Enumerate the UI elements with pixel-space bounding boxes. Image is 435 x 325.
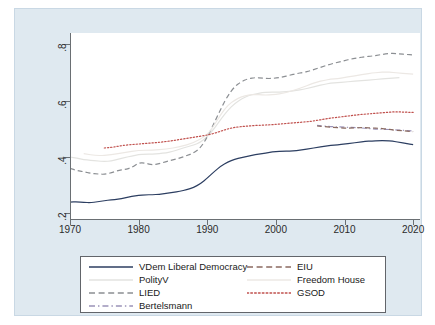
legend-key-line-solid-offwhite (247, 275, 291, 285)
legend-entry[interactable]: PolityV (89, 273, 169, 286)
series-line (104, 112, 413, 148)
graph-region: .2.4.6.8 197019801990200020102020 VDem L… (14, 8, 422, 316)
legend-inner: VDem Liberal DemocracyPolityVLIEDBertels… (81, 257, 385, 312)
x-tick-label: 1970 (50, 224, 90, 235)
series-canvas (70, 33, 420, 219)
legend-entry[interactable]: Bertelsmann (89, 299, 192, 312)
legend-key-line-solid-lightgrey (89, 275, 133, 285)
series-line (70, 78, 399, 162)
y-tick-label: .4 (57, 157, 68, 187)
chart-figure: .2.4.6.8 197019801990200020102020 VDem L… (0, 0, 435, 325)
legend: VDem Liberal DemocracyPolityVLIEDBertels… (80, 256, 386, 313)
legend-label: VDem Liberal Democracy (139, 262, 247, 272)
legend-entry[interactable]: GSOD (247, 286, 325, 299)
x-tick-label: 1990 (187, 224, 227, 235)
legend-key-line-dashed-brown (247, 262, 291, 272)
x-tick-label: 1980 (119, 224, 159, 235)
legend-entry[interactable]: EIU (247, 260, 313, 273)
y-tick-label: .8 (57, 44, 68, 74)
legend-label: EIU (297, 262, 313, 272)
plot-area (70, 33, 420, 219)
x-tick-label: 2020 (393, 224, 433, 235)
y-axis-line (70, 33, 71, 220)
legend-entry[interactable]: LIED (89, 286, 160, 299)
series-line (70, 141, 413, 203)
legend-key-line-dashed-grey (89, 288, 133, 298)
x-tick-label: 2010 (325, 224, 365, 235)
legend-label: LIED (139, 288, 160, 298)
legend-label: PolityV (139, 275, 169, 285)
legend-label: Bertelsmann (139, 301, 192, 311)
legend-entry[interactable]: Freedom House (247, 273, 365, 286)
y-tick-label: .6 (57, 100, 68, 130)
legend-label: Freedom House (297, 275, 365, 285)
legend-key-line-dotted-red (247, 288, 291, 298)
x-tick-label: 2000 (256, 224, 296, 235)
legend-label: GSOD (297, 288, 325, 298)
legend-key-line-solid-navy (89, 262, 133, 272)
series-line (70, 53, 413, 174)
x-axis-line (70, 219, 420, 220)
legend-key-line-dashdot-purple (89, 301, 133, 311)
legend-entry[interactable]: VDem Liberal Democracy (89, 260, 247, 273)
